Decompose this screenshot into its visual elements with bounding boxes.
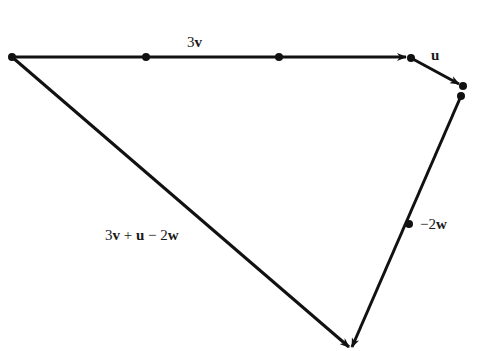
label-neg-2w: −2w bbox=[420, 216, 447, 232]
point-u-end bbox=[459, 82, 467, 90]
vector-resultant bbox=[12, 57, 349, 347]
point-v2 bbox=[275, 53, 283, 61]
label-3v: 3v bbox=[187, 34, 203, 50]
label-u: u bbox=[431, 47, 439, 63]
point-w-start bbox=[457, 92, 465, 100]
point-u-start bbox=[407, 54, 415, 62]
vector-diagram: 3v u −2w 3v + u − 2w bbox=[0, 0, 484, 351]
point-v1 bbox=[142, 53, 150, 61]
label-resultant: 3v + u − 2w bbox=[105, 227, 179, 243]
point-origin bbox=[8, 53, 16, 61]
point-w-mid bbox=[405, 220, 413, 228]
